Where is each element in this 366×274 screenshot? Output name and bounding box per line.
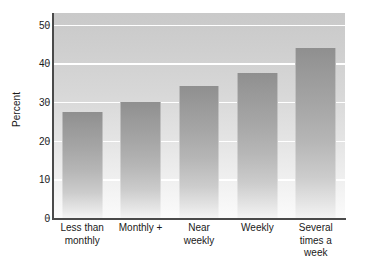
y-tick-mark xyxy=(46,179,50,180)
bar-chart-figure: Percent 01020304050 Less than monthlyMon… xyxy=(0,0,366,274)
bars-layer xyxy=(53,13,345,218)
y-axis-title-text: Percent xyxy=(11,92,22,127)
bar xyxy=(120,102,161,218)
y-tick-mark xyxy=(46,101,50,102)
bar xyxy=(237,73,278,218)
bar xyxy=(62,112,103,218)
y-tick-mark xyxy=(46,63,50,64)
x-tick-label: Several times a week xyxy=(281,222,351,260)
bar xyxy=(179,86,220,218)
bar xyxy=(295,48,336,218)
x-axis-line xyxy=(52,218,346,220)
y-tick-mark xyxy=(46,140,50,141)
y-tick-mark xyxy=(46,24,50,25)
y-axis-line xyxy=(52,13,54,219)
y-tick-mark xyxy=(46,218,50,219)
x-axis-tick-labels: Less than monthlyMonthly +Near weeklyWee… xyxy=(53,222,345,274)
